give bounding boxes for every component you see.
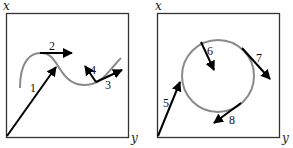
label-8: 8 [229, 113, 235, 127]
label-4: 4 [90, 63, 96, 77]
diagram-canvas: x y 1 2 3 4 x y 5 6 7 8 [0, 0, 293, 148]
label-7: 7 [256, 51, 262, 65]
label-6: 6 [207, 44, 213, 58]
label-5: 5 [163, 96, 169, 110]
right-y-axis-label: y [281, 131, 289, 145]
label-2: 2 [49, 39, 55, 53]
right-x-axis-label: x [155, 0, 162, 13]
arrow-1 [7, 67, 56, 136]
label-3: 3 [105, 78, 111, 92]
arrow-8 [214, 103, 241, 123]
left-y-axis-label: y [130, 131, 138, 145]
arrow-5 [158, 82, 180, 136]
left-x-axis-label: x [3, 0, 10, 13]
right-panel: x y 5 6 7 8 [155, 0, 289, 145]
label-1: 1 [30, 81, 36, 95]
left-panel: x y 1 2 3 4 [3, 0, 138, 145]
